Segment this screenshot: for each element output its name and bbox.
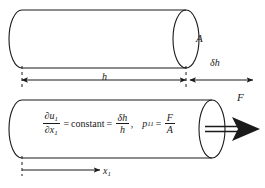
h-denominator: h bbox=[118, 124, 127, 136]
constitutive-equation: ∂u1 ∂x1 = constant = δh h , p11 = F A bbox=[41, 110, 176, 137]
equation-comma: , bbox=[131, 118, 134, 129]
equals-sign-3: = bbox=[156, 118, 162, 129]
strain-numerator-subscript: 1 bbox=[54, 115, 58, 123]
dimension-group-top bbox=[22, 66, 253, 88]
label-force: F bbox=[237, 92, 244, 103]
constant-word: constant bbox=[71, 118, 104, 129]
axis-x1 bbox=[22, 156, 100, 176]
bottom-cylinder-left-cap bbox=[9, 100, 22, 158]
force-numerator: F bbox=[165, 112, 175, 124]
delta-h-over-h-fraction: δh h bbox=[116, 112, 130, 136]
force-over-area-fraction: F A bbox=[165, 112, 175, 136]
strain-denominator: ∂x1 bbox=[43, 124, 60, 137]
label-delta-h: δh bbox=[210, 58, 220, 68]
top-cylinder bbox=[9, 10, 199, 68]
strain-denominator-symbol: ∂x bbox=[45, 124, 54, 135]
delta-h-numerator: δh bbox=[116, 112, 130, 124]
label-h: h bbox=[102, 72, 107, 82]
area-denominator: A bbox=[165, 124, 175, 136]
equals-sign-2: = bbox=[106, 118, 112, 129]
strain-denominator-subscript: 1 bbox=[54, 129, 58, 137]
equals-sign-1: = bbox=[63, 118, 69, 129]
bottom-cylinder-right-cap bbox=[199, 100, 225, 158]
label-cross-section-area: A bbox=[196, 33, 203, 44]
top-cylinder-left-cap bbox=[9, 10, 22, 68]
strain-fraction: ∂u1 ∂x1 bbox=[43, 110, 60, 137]
figure-canvas: A δh h F x1 ∂u1 ∂x1 = constant = δh h , … bbox=[0, 0, 265, 188]
strain-numerator: ∂u1 bbox=[43, 110, 60, 123]
strain-numerator-symbol: ∂u bbox=[45, 110, 55, 121]
label-axis-x1: x1 bbox=[103, 166, 111, 178]
label-axis-x1-subscript: 1 bbox=[107, 170, 111, 178]
diagram-vector-layer bbox=[0, 0, 265, 188]
stress-subscript: 11 bbox=[147, 120, 153, 128]
force-arrow-head bbox=[232, 117, 260, 141]
force-arrow bbox=[205, 117, 260, 141]
